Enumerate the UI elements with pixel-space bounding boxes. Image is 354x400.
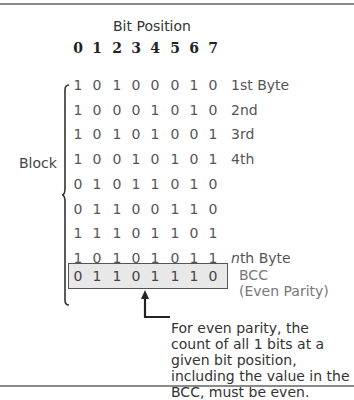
row-label-text: 3rd (231, 126, 254, 142)
bit-cell: 1 (71, 225, 85, 241)
row-label-text: 2nd (231, 102, 258, 118)
bit-cell: 0 (168, 126, 182, 142)
bit-cell: 1 (168, 151, 182, 167)
bcc-bit: 1 (90, 268, 104, 284)
row-label-italic: n (231, 250, 240, 266)
bit-cell: 0 (129, 126, 143, 142)
bit-position-5: 5 (168, 40, 182, 56)
bit-cell: 1 (110, 126, 124, 142)
bit-cell: 0 (168, 176, 182, 192)
bcc-bit: 0 (206, 268, 220, 284)
bit-cell: 0 (129, 225, 143, 241)
bit-cell: 1 (129, 151, 143, 167)
bit-cell: 1 (187, 77, 201, 93)
bit-cell: 1 (187, 201, 201, 217)
bit-cell: 1 (110, 225, 124, 241)
bit-cell: 0 (110, 151, 124, 167)
parity-arrow-icon (138, 288, 174, 322)
bit-position-4: 4 (148, 40, 162, 56)
bit-cell: 1 (168, 225, 182, 241)
bit-cell: 1 (148, 126, 162, 142)
bit-cell: 0 (90, 102, 104, 118)
bit-cell: 1 (90, 225, 104, 241)
row-label: 4th (231, 151, 254, 167)
row-label-text: 1st Byte (231, 77, 289, 93)
row-label: 3rd (231, 126, 254, 142)
bcc-label-line2: (Even Parity) (239, 283, 329, 299)
bit-cell: 1 (168, 201, 182, 217)
bit-cell: 1 (71, 126, 85, 142)
bit-cell: 0 (129, 77, 143, 93)
row-label: nth Byte (231, 250, 291, 266)
row-label-text: 4th (231, 151, 254, 167)
bit-cell: 1 (187, 102, 201, 118)
bit-cell: 0 (90, 151, 104, 167)
bit-cell: 1 (148, 176, 162, 192)
bit-cell: 1 (148, 102, 162, 118)
bit-cell: 1 (71, 151, 85, 167)
bit-cell: 1 (206, 151, 220, 167)
bit-cell: 1 (110, 201, 124, 217)
bcc-label-line1: BCC (239, 267, 329, 283)
bcc-bit: 0 (129, 268, 143, 284)
bit-cell: 1 (129, 176, 143, 192)
bit-cell: 1 (148, 225, 162, 241)
bcc-bit: 1 (110, 268, 124, 284)
bit-position-title: Bit Position (113, 18, 191, 34)
bit-position-6: 6 (187, 40, 201, 56)
bit-cell: 0 (206, 102, 220, 118)
bit-cell: 1 (110, 77, 124, 93)
bit-cell: 1 (71, 102, 85, 118)
parity-note: For even parity, the count of all 1 bits… (171, 320, 351, 400)
bit-cell: 1 (187, 176, 201, 192)
bit-cell: 0 (71, 176, 85, 192)
bit-cell: 0 (206, 201, 220, 217)
bit-cell: 0 (110, 102, 124, 118)
bit-cell: 0 (90, 126, 104, 142)
bit-cell: 1 (71, 77, 85, 93)
bit-cell: 0 (187, 225, 201, 241)
bit-cell: 0 (187, 151, 201, 167)
bcc-bit: 0 (71, 268, 85, 284)
bit-cell: 0 (110, 176, 124, 192)
bit-position-1: 1 (90, 40, 104, 56)
top-rule (0, 3, 354, 5)
bit-cell: 1 (206, 225, 220, 241)
bit-cell: 0 (148, 151, 162, 167)
bcc-bit: 1 (148, 268, 162, 284)
bcc-bit: 1 (168, 268, 182, 284)
bit-cell: 0 (206, 77, 220, 93)
bit-cell: 1 (206, 126, 220, 142)
bit-cell: 0 (168, 102, 182, 118)
bit-cell: 1 (90, 176, 104, 192)
bit-position-7: 7 (206, 40, 220, 56)
bit-cell: 0 (148, 77, 162, 93)
block-label: Block (19, 155, 57, 171)
bit-cell: 0 (206, 176, 220, 192)
bit-position-3: 3 (129, 40, 143, 56)
bit-cell: 0 (168, 77, 182, 93)
bit-cell: 0 (129, 201, 143, 217)
row-label-text: th Byte (240, 250, 291, 266)
bit-cell: 0 (148, 201, 162, 217)
bit-position-2: 2 (110, 40, 124, 56)
row-label: 1st Byte (231, 77, 289, 93)
bit-cell: 1 (90, 201, 104, 217)
bit-cell: 0 (90, 77, 104, 93)
bcc-bit: 1 (187, 268, 201, 284)
bit-cell: 0 (129, 102, 143, 118)
bit-cell: 0 (71, 201, 85, 217)
bcc-label: BCC (Even Parity) (239, 267, 329, 299)
bottom-rule (0, 385, 354, 387)
bit-cell: 0 (187, 126, 201, 142)
bit-position-0: 0 (71, 40, 85, 56)
row-label: 2nd (231, 102, 258, 118)
